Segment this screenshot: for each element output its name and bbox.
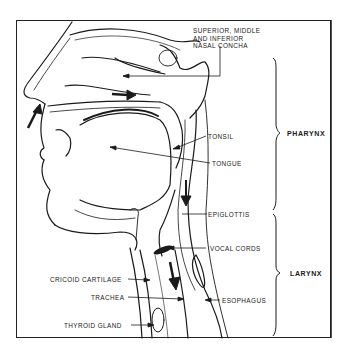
label-trachea: TRACHEA: [91, 294, 124, 302]
anatomy-illustration: [0, 0, 345, 357]
region-pharynx: PHARYNX: [287, 130, 325, 137]
hard-palate: [48, 101, 160, 106]
label-line: SUPERIOR, MIDDLE: [193, 27, 260, 35]
tongue-outline: [80, 113, 171, 210]
label-line: NASAL CONCHA: [193, 42, 260, 50]
thyroid-shape: [152, 308, 164, 332]
label-thyroid-gland: THYROID GLAND: [64, 322, 122, 330]
pharynx-brace: [273, 58, 280, 210]
inferior-concha: [65, 85, 150, 95]
region-larynx: LARYNX: [290, 270, 322, 277]
label-tonsil: TONSIL: [208, 133, 233, 141]
nasal-flow-arrow-icon: [112, 94, 128, 95]
label-nasal-concha: SUPERIOR, MIDDLE AND INFERIOR NASAL CONC…: [193, 27, 260, 50]
label-line: AND INFERIOR: [193, 35, 260, 43]
trachea-back: [175, 250, 188, 338]
label-epiglottis: EPIGLOTTIS: [208, 211, 250, 219]
label-vocal-cords: VOCAL CORDS: [210, 245, 261, 253]
label-cricoid-cartilage: CRICOID CARTILAGE: [50, 276, 122, 284]
label-esophagus: ESOPHAGUS: [222, 297, 266, 305]
jaw-outline: [55, 225, 137, 250]
larynx-brace: [273, 214, 280, 336]
lower-lip: [42, 160, 55, 225]
nose-outline: [24, 22, 72, 104]
pharynx-wall: [188, 110, 222, 338]
label-tongue: TONGUE: [212, 160, 242, 168]
